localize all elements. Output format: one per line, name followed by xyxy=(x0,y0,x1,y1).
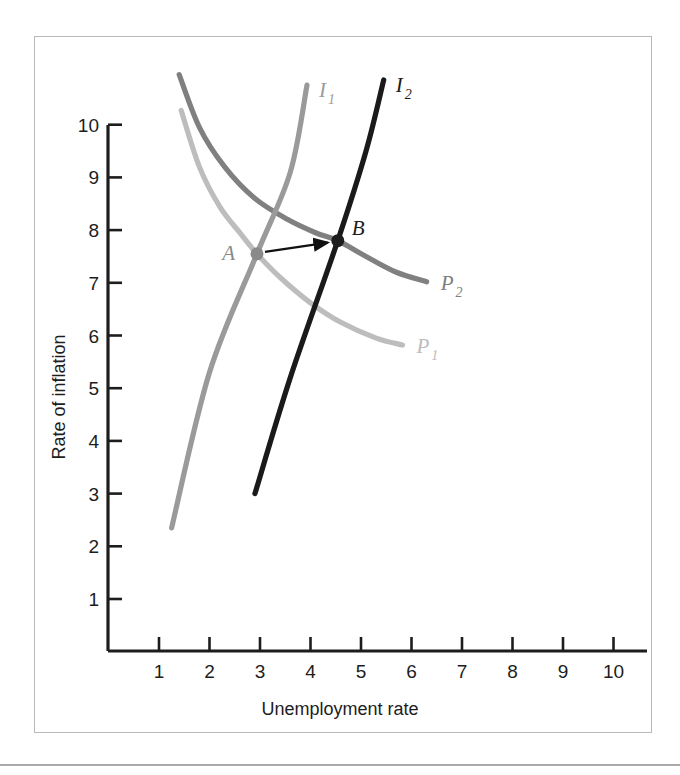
x-tick-label-5: 5 xyxy=(356,661,367,682)
data-point-B xyxy=(331,234,344,247)
chart-axes xyxy=(108,125,647,651)
y-tick-label-10: 10 xyxy=(78,115,99,136)
shift-arrow-a-to-b xyxy=(265,243,328,252)
curve-label-I_1: I1 xyxy=(318,78,335,107)
curve-label-subscript-I_2: 2 xyxy=(405,87,412,102)
y-tick-label-3: 3 xyxy=(88,484,99,505)
x-axis-title: Unemployment rate xyxy=(261,699,418,719)
curve-label-subscript-P_1: 1 xyxy=(431,348,438,363)
x-tick-label-10: 10 xyxy=(603,661,624,682)
figure-frame: 12345678910 12345678910 AB P1P2I1I2 Unem… xyxy=(34,36,652,733)
chart-curves xyxy=(172,75,427,528)
y-tick-label-9: 9 xyxy=(88,167,99,188)
x-tick-label-7: 7 xyxy=(457,661,468,682)
x-tick-label-1: 1 xyxy=(154,661,165,682)
curve-label-subscript-I_1: 1 xyxy=(328,92,335,107)
y-tick-label-6: 6 xyxy=(88,326,99,347)
x-tick-label-6: 6 xyxy=(406,661,417,682)
curve-label-P_1: P1 xyxy=(415,334,438,363)
footer-divider xyxy=(0,764,680,766)
data-point-label-A: A xyxy=(220,241,235,265)
y-axis-ticks: 12345678910 xyxy=(78,115,122,610)
y-tick-label-8: 8 xyxy=(88,220,99,241)
x-tick-label-3: 3 xyxy=(255,661,266,682)
y-tick-label-4: 4 xyxy=(88,431,99,452)
y-tick-label-5: 5 xyxy=(88,378,99,399)
x-tick-label-9: 9 xyxy=(558,661,569,682)
curve-label-I_2: I2 xyxy=(395,73,412,102)
x-tick-label-4: 4 xyxy=(305,661,316,682)
curve-I_2 xyxy=(255,80,384,494)
curve-label-P_2: P2 xyxy=(440,271,463,300)
x-tick-label-2: 2 xyxy=(204,661,215,682)
phillips-curve-chart: 12345678910 12345678910 AB P1P2I1I2 Unem… xyxy=(35,37,653,734)
y-tick-label-1: 1 xyxy=(88,589,99,610)
data-point-label-B: B xyxy=(352,216,365,240)
data-point-A xyxy=(250,247,263,260)
x-axis-ticks: 12345678910 xyxy=(154,637,624,682)
chart-annotations xyxy=(265,243,328,252)
y-tick-label-2: 2 xyxy=(88,536,99,557)
y-axis-title: Rate of inflation xyxy=(49,334,69,459)
x-tick-label-8: 8 xyxy=(507,661,518,682)
curve-label-subscript-P_2: 2 xyxy=(455,285,462,300)
y-tick-label-7: 7 xyxy=(88,273,99,294)
